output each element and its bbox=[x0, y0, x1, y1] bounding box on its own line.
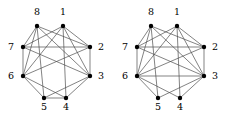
graph-edge-1-7 bbox=[23, 26, 63, 47]
vertex-label-5: 5 bbox=[155, 101, 161, 112]
graph-vertex-5 bbox=[156, 96, 160, 100]
graph-vertex-2 bbox=[202, 45, 206, 49]
graph-vertex-2 bbox=[88, 45, 92, 49]
graph-edge-1-2 bbox=[63, 26, 90, 47]
vertex-label-5: 5 bbox=[41, 101, 47, 112]
vertex-label-6: 6 bbox=[122, 70, 128, 81]
graph-edge-1-6 bbox=[137, 26, 177, 76]
graph-edge-3-5 bbox=[44, 76, 90, 98]
graph-edge-1-7 bbox=[137, 26, 177, 47]
graph-figure: 12345678 12345678 bbox=[0, 0, 228, 115]
graph-vertex-4 bbox=[178, 96, 182, 100]
vertex-label-8: 8 bbox=[148, 6, 154, 17]
graph-edge-1-3 bbox=[177, 26, 204, 76]
edge-group bbox=[137, 26, 204, 98]
vertex-group: 12345678 bbox=[122, 6, 218, 112]
graph-vertex-5 bbox=[42, 96, 46, 100]
vertex-label-4: 4 bbox=[177, 101, 183, 112]
vertex-label-3: 3 bbox=[212, 70, 218, 81]
vertex-label-4: 4 bbox=[63, 101, 69, 112]
graph-vertex-3 bbox=[88, 74, 92, 78]
vertex-label-2: 2 bbox=[98, 41, 104, 52]
graph-vertex-8 bbox=[35, 24, 39, 28]
graph-edge-8-7 bbox=[23, 26, 37, 47]
graph-edge-6-4 bbox=[137, 76, 180, 98]
graph-edge-3-5 bbox=[158, 76, 204, 98]
graph-edge-8-6 bbox=[137, 26, 151, 76]
vertex-label-7: 7 bbox=[8, 41, 14, 52]
graph-edge-1-3 bbox=[63, 26, 90, 76]
graph-vertex-1 bbox=[61, 24, 65, 28]
graph-vertex-6 bbox=[135, 74, 139, 78]
graph-edge-8-6 bbox=[23, 26, 37, 76]
graph-edge-6-4 bbox=[23, 76, 66, 98]
vertex-label-2: 2 bbox=[212, 41, 218, 52]
vertex-label-8: 8 bbox=[34, 6, 40, 17]
vertex-label-7: 7 bbox=[122, 41, 128, 52]
vertex-label-6: 6 bbox=[8, 70, 14, 81]
graph-vertex-3 bbox=[202, 74, 206, 78]
graph-vertex-6 bbox=[21, 74, 25, 78]
graph-vertex-8 bbox=[149, 24, 153, 28]
graph-edge-3-4 bbox=[180, 76, 204, 98]
vertex-label-1: 1 bbox=[174, 6, 180, 17]
graph-vertex-4 bbox=[64, 96, 68, 100]
graph-left: 12345678 bbox=[0, 0, 114, 115]
edge-group bbox=[23, 26, 90, 98]
graph-edge-1-6 bbox=[23, 26, 63, 76]
graph-edge-8-7 bbox=[137, 26, 151, 47]
graph-edge-6-5 bbox=[137, 76, 158, 98]
graph-right: 12345678 bbox=[114, 0, 228, 115]
vertex-group: 12345678 bbox=[8, 6, 104, 112]
vertex-label-1: 1 bbox=[60, 6, 66, 17]
graph-edge-1-2 bbox=[177, 26, 204, 47]
graph-vertex-7 bbox=[135, 45, 139, 49]
graph-edge-6-5 bbox=[23, 76, 44, 98]
graph-edge-3-4 bbox=[66, 76, 90, 98]
graph-vertex-7 bbox=[21, 45, 25, 49]
graph-vertex-1 bbox=[175, 24, 179, 28]
vertex-label-3: 3 bbox=[98, 70, 104, 81]
